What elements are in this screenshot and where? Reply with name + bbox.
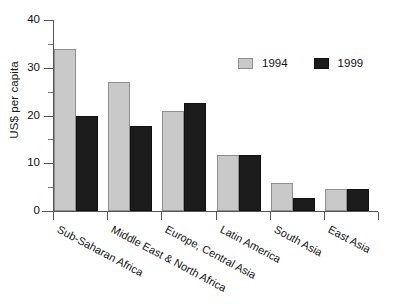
bar-1999-4 bbox=[293, 198, 315, 211]
bar-1999-2 bbox=[184, 103, 206, 211]
x-axis-line bbox=[42, 211, 378, 212]
bar-1994-1 bbox=[108, 82, 130, 211]
y-axis-tick-label: 30 bbox=[14, 62, 40, 73]
x-axis-tick-5 bbox=[324, 212, 325, 220]
legend-entry-1999: 1999 bbox=[314, 57, 390, 69]
x-axis-category-label: East Asia bbox=[326, 223, 373, 256]
legend-swatch-1999 bbox=[314, 58, 329, 69]
x-axis-tick-2 bbox=[161, 212, 162, 220]
y-axis-tick-label: 0 bbox=[14, 205, 40, 216]
y-axis-tick-0 bbox=[44, 211, 53, 212]
bar-1994-5 bbox=[325, 189, 347, 211]
y-axis-tick-label: 10 bbox=[14, 157, 40, 168]
y-axis-tick-20 bbox=[44, 116, 53, 117]
bar-1994-2 bbox=[162, 111, 184, 211]
x-axis-tick-3 bbox=[216, 212, 217, 220]
bar-1999-5 bbox=[347, 189, 369, 211]
bar-1994-4 bbox=[271, 183, 293, 211]
bar-1994-3 bbox=[217, 155, 239, 211]
bar-chart: US$ per capita 010203040 Sub-Saharan Afr… bbox=[0, 0, 399, 304]
bar-1999-1 bbox=[130, 126, 152, 211]
y-axis-title: US$ per capita bbox=[7, 0, 21, 200]
y-axis-tick-label: 20 bbox=[14, 110, 40, 121]
bar-1999-0 bbox=[76, 116, 98, 212]
legend: 19941999 bbox=[238, 55, 389, 71]
x-axis-tick-0 bbox=[53, 212, 54, 220]
bar-1994-0 bbox=[54, 49, 76, 211]
bar-1999-3 bbox=[239, 155, 261, 211]
y-axis-tick-label: 40 bbox=[14, 14, 40, 25]
legend-label-1994: 1994 bbox=[262, 57, 288, 69]
legend-swatch-1994 bbox=[238, 58, 253, 69]
y-axis-tick-30 bbox=[44, 68, 53, 69]
x-axis-tick-end bbox=[378, 212, 379, 220]
plot-area bbox=[53, 20, 378, 211]
legend-entry-1994: 1994 bbox=[238, 57, 314, 69]
y-axis-tick-40 bbox=[44, 20, 53, 21]
y-axis-tick-10 bbox=[44, 163, 53, 164]
x-axis-tick-4 bbox=[270, 212, 271, 220]
legend-label-1999: 1999 bbox=[338, 57, 364, 69]
x-axis-tick-1 bbox=[107, 212, 108, 220]
